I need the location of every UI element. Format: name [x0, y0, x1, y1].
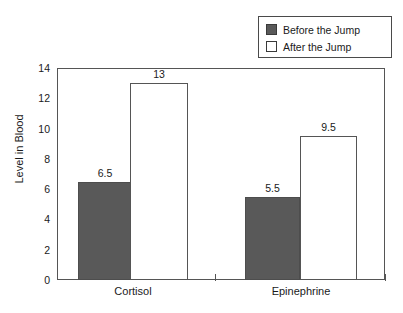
y-tick-label: 6	[22, 184, 50, 195]
y-tick-label: 0	[22, 275, 50, 286]
legend-entry-before-the-jump: Before the Jump	[266, 21, 385, 38]
bar-epinephrine-before	[245, 197, 300, 280]
bar-value-label: 13	[120, 69, 198, 80]
y-tick-label: 4	[22, 214, 50, 225]
y-tick-label: 14	[22, 63, 50, 74]
x-tick-mark	[215, 274, 216, 281]
y-tick-label: 2	[22, 245, 50, 256]
bar-value-label: 5.5	[235, 183, 310, 194]
bar-cortisol-before	[78, 182, 132, 280]
bar-epinephrine-after	[300, 136, 357, 280]
hollow-square-icon	[266, 41, 277, 52]
x-category-label-epinephrine: Epinephrine	[241, 285, 361, 297]
legend-entry-after-the-jump: After the Jump	[266, 38, 385, 55]
chart-legend: Before the Jump After the Jump	[258, 16, 392, 58]
y-tick-label: 10	[22, 124, 50, 135]
filled-square-icon	[266, 24, 277, 35]
bar-cortisol-after	[130, 83, 188, 280]
legend-label-after: After the Jump	[283, 41, 351, 53]
y-tick-label: 8	[22, 154, 50, 165]
x-tick-mark	[385, 274, 386, 281]
y-tick-label: 12	[22, 93, 50, 104]
x-category-label-cortisol: Cortisol	[73, 285, 193, 297]
legend-label-before: Before the Jump	[283, 24, 360, 36]
bar-chart-figure: Before the Jump After the Jump Level in …	[0, 0, 403, 313]
bar-value-label: 9.5	[290, 122, 367, 133]
